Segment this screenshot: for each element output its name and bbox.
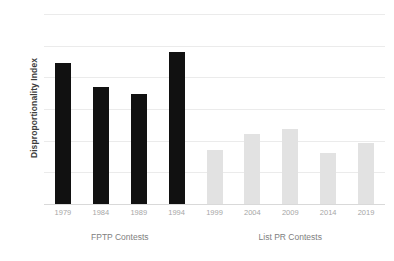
x-axis-tick-label: 2009 [270, 208, 310, 217]
x-axis-group-label: FPTP Contests [50, 232, 190, 242]
x-axis-tick-label: 1999 [195, 208, 235, 217]
x-axis-tick-label: 2014 [308, 208, 348, 217]
plot-area: 051015202530 [44, 14, 385, 204]
bars [44, 14, 385, 204]
x-axis-group-labels: FPTP ContestsList PR Contests [44, 232, 385, 248]
bar [244, 134, 260, 204]
bar [358, 143, 374, 204]
bar [131, 94, 147, 204]
x-axis-tick-label: 2004 [232, 208, 272, 217]
bar [93, 87, 109, 204]
bar [207, 150, 223, 204]
x-axis-tick-label: 1994 [157, 208, 197, 217]
bar [169, 52, 185, 204]
y-axis-title: Disproportionality Index [29, 28, 39, 188]
x-axis-group-label: List PR Contests [220, 232, 360, 242]
bar [55, 63, 71, 204]
bar [282, 129, 298, 204]
x-axis: 197919841989199419992004200920142019 [44, 205, 385, 221]
bar-chart: Disproportionality Index 051015202530 19… [0, 0, 394, 261]
x-axis-tick-label: 2019 [346, 208, 386, 217]
x-axis-tick-label: 1984 [81, 208, 121, 217]
x-axis-tick-label: 1989 [119, 208, 159, 217]
x-axis-tick-label: 1979 [43, 208, 83, 217]
bar [320, 153, 336, 204]
